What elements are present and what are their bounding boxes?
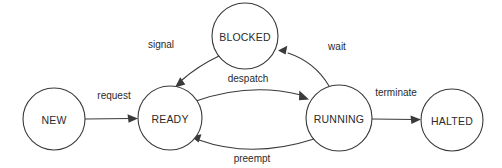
transition-terminate-arrowhead [411, 115, 422, 124]
transition-preempt: preempt [191, 134, 314, 163]
transition-request-line [85, 119, 131, 120]
transition-despatch-curve [196, 90, 301, 101]
transition-request-arrowhead [128, 114, 139, 123]
state-diagram: request despatch preempt wait signal [0, 0, 502, 168]
transition-despatch-arrowhead [299, 91, 309, 101]
state-label-running: RUNNING [314, 113, 364, 125]
transition-request-label: request [97, 90, 131, 101]
transition-wait: wait [278, 41, 346, 87]
state-label-new: NEW [41, 114, 66, 126]
transition-wait-label: wait [327, 41, 346, 52]
state-label-halted: HALTED [431, 115, 473, 127]
transition-request: request [85, 90, 138, 123]
transition-terminate-label: terminate [375, 87, 417, 98]
transition-wait-curve [288, 53, 329, 86]
state-node-running[interactable]: RUNNING [306, 85, 372, 151]
state-node-halted[interactable]: HALTED [421, 89, 483, 151]
transition-despatch-label: despatch [228, 73, 269, 84]
transition-wait-arrowhead [278, 46, 287, 55]
transition-preempt-label: preempt [234, 153, 271, 164]
transition-preempt-curve [199, 139, 314, 149]
transition-terminate-line [372, 119, 414, 120]
transition-signal-curve [182, 56, 219, 80]
state-node-blocked[interactable]: BLOCKED [212, 3, 278, 69]
state-diagram-canvas: request despatch preempt wait signal [0, 0, 502, 168]
state-label-blocked: BLOCKED [219, 31, 271, 43]
state-node-ready[interactable]: READY [138, 86, 202, 150]
transition-signal: signal [148, 39, 219, 88]
state-node-new[interactable]: NEW [23, 88, 85, 150]
transition-signal-label: signal [148, 39, 174, 50]
transition-despatch: despatch [196, 73, 309, 102]
transition-terminate: terminate [372, 87, 421, 124]
state-label-ready: READY [151, 113, 188, 125]
